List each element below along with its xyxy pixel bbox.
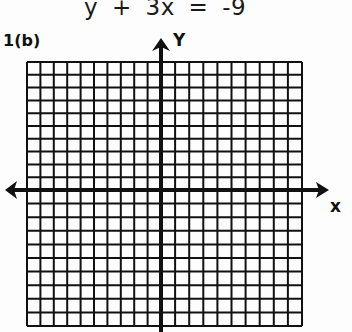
y-axis-label: Y xyxy=(173,30,185,50)
worksheet: y + 3x = -9 1(b) x Y xyxy=(0,0,352,332)
x-axis-label: x xyxy=(330,196,341,216)
y-axis xyxy=(152,38,170,332)
grid-lines xyxy=(27,62,302,326)
